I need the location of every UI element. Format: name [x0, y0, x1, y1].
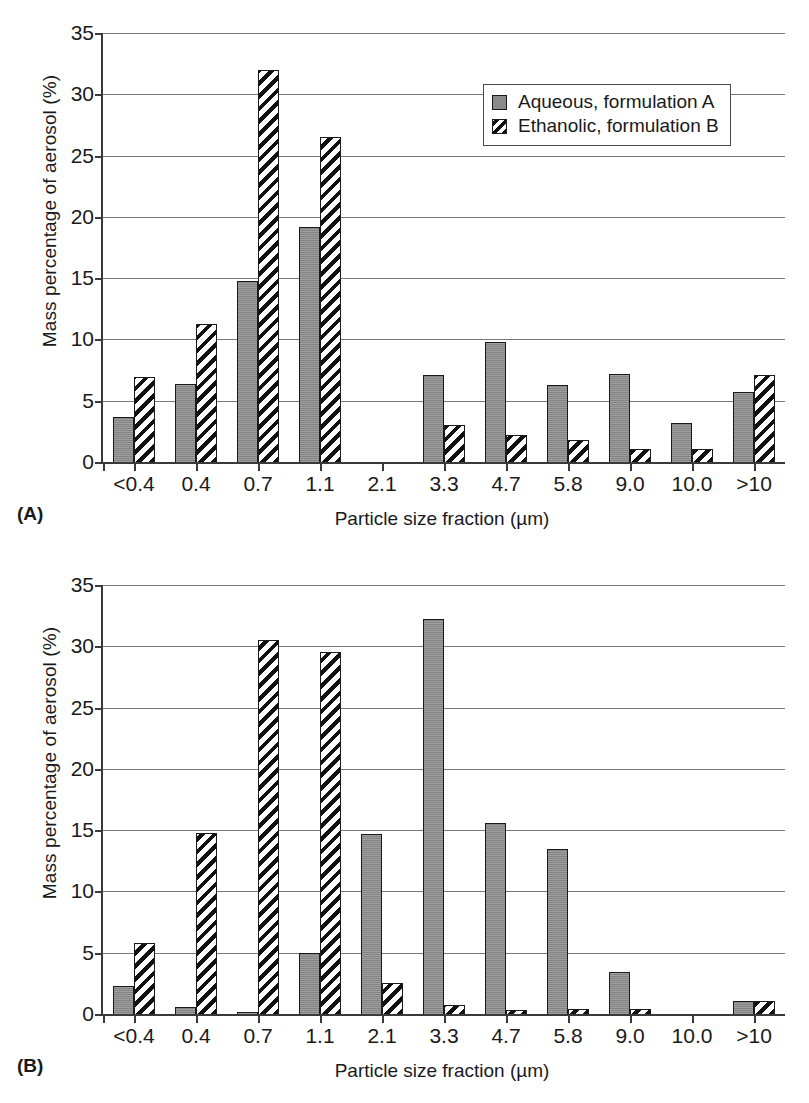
bar-group: 4.7 [475, 585, 537, 1014]
x-tick-mark [754, 462, 756, 471]
y-tick-label: 5 [82, 389, 103, 413]
x-tick-label: >10 [736, 472, 772, 496]
x-tick-label: 0.4 [181, 1024, 210, 1048]
x-tick-mark [506, 462, 508, 471]
chart-panel-b: Mass percentage of aerosol (%) 051015202… [0, 552, 809, 1092]
x-tick-label: 10.0 [672, 472, 713, 496]
x-axis-title-b: Particle size fraction (µm) [101, 1060, 783, 1082]
bar-ethanolic [196, 324, 217, 463]
x-tick-label: >10 [736, 1024, 772, 1048]
bar-aqueous [423, 375, 444, 462]
x-tick-label: 4.7 [491, 472, 520, 496]
bar-aqueous [733, 392, 754, 462]
bar-ethanolic [444, 425, 465, 462]
solid-gray-square-icon [492, 95, 507, 110]
y-axis-title-b: Mass percentage of aerosol (%) [39, 553, 61, 973]
legend-label-aqueous-a: Aqueous, formulation A [518, 90, 714, 114]
x-tick-label: 4.7 [491, 1024, 520, 1048]
x-tick-label: 9.0 [615, 1024, 644, 1048]
y-tick-label: 35 [71, 21, 103, 45]
x-tick-label: 5.8 [553, 1024, 582, 1048]
bar-ethanolic [568, 1009, 589, 1014]
x-tick-mark [103, 1014, 105, 1023]
bar-aqueous [485, 342, 506, 462]
bar-ethanolic [630, 1009, 651, 1014]
bar-group: <0.4 [103, 585, 165, 1014]
bar-group: >10 [723, 33, 785, 462]
x-tick-label: 2.1 [367, 1024, 396, 1048]
bar-aqueous [423, 619, 444, 1014]
bar-ethanolic [382, 983, 403, 1014]
y-tick-label: 20 [71, 757, 103, 781]
chart-panel-a: Mass percentage of aerosol (%) 051015202… [0, 0, 809, 540]
x-tick-mark [754, 1014, 756, 1023]
x-axis-title-a: Particle size fraction (µm) [101, 508, 783, 530]
bar-group: 0.7 [227, 585, 289, 1014]
y-tick-label: 30 [71, 634, 103, 658]
y-tick-label: 10 [71, 327, 103, 351]
bar-group: 10.0 [661, 585, 723, 1014]
bar-group: 1.1 [289, 585, 351, 1014]
x-tick-mark [103, 462, 105, 471]
bar-aqueous [547, 385, 568, 462]
bar-aqueous [547, 849, 568, 1014]
diagonal-hatch-square-icon [492, 119, 507, 134]
y-tick-label: 15 [71, 818, 103, 842]
x-tick-label: <0.4 [113, 472, 154, 496]
x-tick-label: 9.0 [615, 472, 644, 496]
y-tick-label: 30 [71, 82, 103, 106]
panel-tag-a: (A) [17, 503, 43, 525]
x-tick-label: 1.1 [305, 1024, 334, 1048]
x-tick-mark [134, 462, 136, 471]
bar-aqueous [237, 1012, 258, 1014]
bar-group: 3.3 [413, 33, 475, 462]
y-tick-label: 5 [82, 941, 103, 965]
x-tick-mark [196, 462, 198, 471]
x-tick-mark [134, 1014, 136, 1023]
bar-aqueous [609, 972, 630, 1014]
x-tick-mark [568, 1014, 570, 1023]
x-tick-mark [630, 462, 632, 471]
bar-aqueous [671, 423, 692, 462]
bar-group: <0.4 [103, 33, 165, 462]
legend-a: Aqueous, formulation A Ethanolic, formul… [483, 84, 731, 146]
x-tick-mark [382, 462, 384, 471]
bar-ethanolic [506, 435, 527, 462]
bar-aqueous [299, 953, 320, 1014]
bar-ethanolic [444, 1005, 465, 1014]
bar-ethanolic [630, 449, 651, 462]
bar-group: 0.4 [165, 33, 227, 462]
bar-aqueous [175, 1007, 196, 1014]
bar-group: 9.0 [599, 585, 661, 1014]
x-tick-mark [630, 1014, 632, 1023]
legend-entry-aqueous-a: Aqueous, formulation A [492, 90, 719, 114]
bar-group: 0.4 [165, 585, 227, 1014]
x-tick-label: <0.4 [113, 1024, 154, 1048]
bar-group: >10 [723, 585, 785, 1014]
x-tick-mark [692, 1014, 694, 1023]
x-tick-mark [692, 462, 694, 471]
x-tick-label: 10.0 [672, 1024, 713, 1048]
bar-aqueous [485, 823, 506, 1014]
bar-group: 2.1 [351, 585, 413, 1014]
bar-group: 3.3 [413, 585, 475, 1014]
y-tick-label: 25 [71, 696, 103, 720]
x-tick-label: 0.7 [243, 1024, 272, 1048]
x-tick-mark [444, 462, 446, 471]
x-tick-mark [258, 462, 260, 471]
x-tick-mark [320, 1014, 322, 1023]
bar-group: 5.8 [537, 585, 599, 1014]
bar-group: 1.1 [289, 33, 351, 462]
y-tick-label: 20 [71, 205, 103, 229]
bar-groups-b: <0.40.40.71.12.13.34.75.89.010.0>10 [103, 585, 785, 1014]
bar-ethanolic [258, 70, 279, 462]
x-tick-label: 0.4 [181, 472, 210, 496]
bar-ethanolic [754, 1001, 775, 1014]
bar-group: 2.1 [351, 33, 413, 462]
panel-tag-b: (B) [17, 1055, 43, 1077]
bar-ethanolic [692, 449, 713, 462]
legend-entry-ethanolic-a: Ethanolic, formulation B [492, 114, 719, 138]
bar-aqueous [113, 417, 134, 462]
bar-aqueous [733, 1001, 754, 1014]
y-axis-title-a: Mass percentage of aerosol (%) [39, 1, 61, 421]
